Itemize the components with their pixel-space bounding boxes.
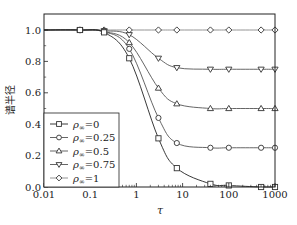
square-marker-icon (102, 30, 107, 35)
square-marker-icon (127, 56, 132, 61)
spectral-radius-chart: 0.010.11101001000 0.00.20.40.60.81.0 τ 谱… (0, 0, 297, 225)
x-tick-label: 0.1 (82, 189, 98, 200)
triangle-down-marker-icon (258, 67, 264, 72)
y-axis-title: 谱半径 (4, 85, 16, 115)
circle-marker-icon (127, 46, 132, 51)
triangle-up-marker-icon (226, 105, 232, 110)
diamond-marker-icon (226, 27, 232, 33)
square-marker-icon (156, 136, 161, 141)
diamond-marker-icon (155, 27, 161, 33)
diamond-marker-icon (258, 27, 264, 33)
x-tick-label: 1000 (262, 189, 287, 200)
diamond-marker-icon (207, 27, 213, 33)
y-tick-label: 0.8 (25, 56, 41, 67)
x-axis-title: τ (157, 204, 164, 217)
triangle-up-marker-icon (258, 105, 264, 110)
circle-marker-icon (226, 145, 231, 150)
triangle-down-marker-icon (155, 56, 161, 61)
y-tick-label: 0.6 (25, 87, 41, 98)
x-tick-label: 10 (176, 189, 189, 200)
x-tick-label: 1 (133, 189, 139, 200)
triangle-down-marker-icon (226, 67, 232, 72)
circle-marker-icon (156, 115, 161, 120)
y-tick-label: 1.0 (25, 25, 41, 36)
circle-marker-icon (174, 140, 179, 145)
square-marker-icon (77, 27, 82, 32)
diamond-marker-icon (174, 27, 180, 33)
square-marker-icon (174, 166, 179, 171)
y-tick-label: 0.0 (25, 182, 41, 193)
y-tick-label: 0.2 (25, 150, 41, 161)
legend-circle-marker-icon (57, 135, 62, 140)
circle-marker-icon (258, 145, 263, 150)
y-tick-label: 0.4 (25, 119, 41, 130)
legend: ρ∞=0ρ∞=0.25ρ∞=0.5ρ∞=0.75ρ∞=1 (44, 113, 119, 187)
circle-marker-icon (208, 145, 213, 150)
series-triangle-down (44, 30, 275, 69)
triangle-down-marker-icon (126, 33, 132, 38)
x-tick-label: 100 (219, 189, 238, 200)
legend-square-marker-icon (57, 122, 62, 127)
series-line (44, 30, 275, 69)
